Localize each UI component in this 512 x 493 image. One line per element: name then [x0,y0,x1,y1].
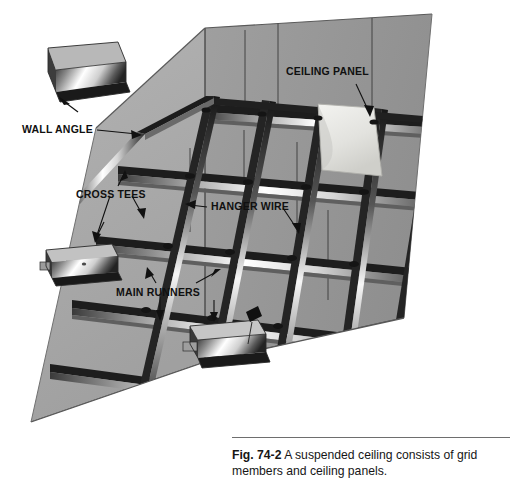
grid-node [370,119,379,124]
grid-node [349,261,359,267]
grid-node [258,111,267,116]
ceiling-panel [318,104,382,176]
grid-node [287,255,297,261]
callout-label-hanger-wire: HANGER WIRE [211,201,289,212]
figure-caption: Fig. 74-2 A suspended ceiling consists o… [232,437,510,479]
wall-angle-profile-inset [48,42,130,112]
grid-node [163,243,173,249]
grid-node [243,179,253,185]
callout-label-ceiling-panel: CEILING PANEL [286,66,369,77]
figure-container: CEILING PANEL WALL ANGLE CROSS TEES HANG… [0,0,512,493]
callout-label-cross-tees: CROSS TEES [76,189,146,200]
grid-node [273,323,283,329]
grid-node [225,249,235,255]
suspended-ceiling-illustration [0,0,512,493]
grid-node [301,184,311,190]
grid-node [359,189,369,195]
grid-node [185,173,195,179]
grid-node [314,115,323,120]
callout-label-main-runners: MAIN RUNNERS [116,287,200,298]
callout-label-wall-angle: WALL ANGLE [22,124,93,135]
caption-divider [232,437,510,438]
grid-node [141,307,151,313]
caption-figure-number: Fig. 74-2 [232,448,281,462]
grid-node [202,107,211,112]
caption-text: Fig. 74-2 A suspended ceiling consists o… [232,447,510,479]
